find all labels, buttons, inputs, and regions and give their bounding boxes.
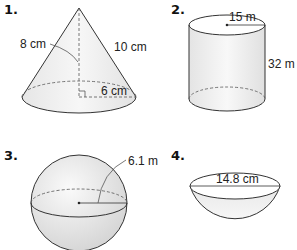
figure-number-1: 1. bbox=[4, 2, 18, 17]
figure-hemisphere: 4. 14.8 cm bbox=[171, 148, 280, 219]
hemisphere-diameter-label: 14.8 cm bbox=[216, 172, 259, 186]
cone-radius-label: 6 cm bbox=[101, 84, 127, 98]
figure-number-4: 4. bbox=[171, 148, 185, 163]
sphere-radius-label: 6.1 m bbox=[128, 154, 158, 168]
cone-height-label: 8 cm bbox=[20, 37, 46, 51]
cylinder-radius-label: 15 m bbox=[229, 10, 256, 24]
figure-cone: 1. 8 cm 10 cm 6 cm bbox=[4, 2, 147, 113]
figure-cylinder: 2. 15 m 32 m bbox=[171, 2, 295, 111]
figure-number-2: 2. bbox=[171, 2, 185, 17]
figure-sphere: 3. 6.1 m bbox=[4, 148, 158, 250]
figure-number-3: 3. bbox=[4, 148, 18, 163]
geometry-figures: 1. 8 cm 10 cm 6 cm 2. 15 m 32 m 3. bbox=[0, 0, 297, 250]
cylinder-height-label: 32 m bbox=[268, 57, 295, 71]
cone-slant-label: 10 cm bbox=[114, 40, 147, 54]
